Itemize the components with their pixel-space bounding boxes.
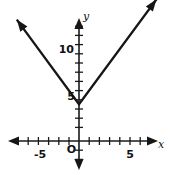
y-axis-bottom-arrow-icon: [74, 159, 83, 170]
y-tick-label-five: 5: [67, 90, 75, 103]
x-axis-label: x: [158, 138, 165, 151]
x-tick-label-neg-five: -5: [34, 148, 46, 161]
y-tick-label-ten: 10: [59, 43, 75, 56]
absolute-value-graph-figure: -5 5 5 10 O x y: [0, 0, 174, 175]
coordinate-plane-svg: -5 5 5 10 O x y: [0, 0, 174, 175]
origin-label: O: [67, 143, 76, 156]
x-axis-right-arrow-icon: [147, 136, 158, 145]
y-axis-label: y: [82, 10, 90, 23]
x-tick-label-pos-five: 5: [126, 148, 134, 161]
